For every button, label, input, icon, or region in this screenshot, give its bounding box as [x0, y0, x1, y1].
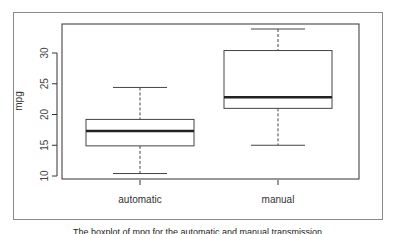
x-tick-label: manual [262, 194, 295, 205]
y-axis: 1015202530 [39, 47, 57, 182]
y-tick-label: 20 [39, 109, 50, 121]
box-automatic [86, 87, 194, 173]
y-tick-label: 30 [39, 47, 50, 59]
x-axis: automaticmanual [118, 180, 294, 205]
y-tick-label: 10 [39, 170, 50, 182]
box-manual [224, 29, 332, 145]
x-tick-label: automatic [118, 194, 161, 205]
boxplot-chart: 1015202530 automaticmanual mpg [0, 0, 395, 234]
y-axis-label: mpg [13, 91, 24, 110]
boxes [86, 29, 332, 174]
y-tick-label: 15 [39, 139, 50, 151]
y-tick-label: 25 [39, 78, 50, 90]
figure-caption: The boxplot of mpg for the automatic and… [0, 227, 395, 234]
